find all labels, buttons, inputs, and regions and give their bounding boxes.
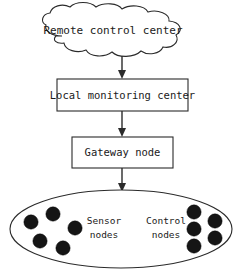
control-nodes-label-line1: Control [146,215,186,226]
sensor-node-dot [46,207,60,221]
ellipse-node-field[interactable]: Sensor nodes Control nodes [10,190,232,268]
sensor-node-dot [56,241,70,255]
box-label: Local monitoring center [50,89,195,101]
control-node-dot [187,222,201,236]
connector-local-monitoring-to-gateway [118,111,126,137]
sensor-nodes-label-line2: nodes [90,229,119,240]
box-label: Gateway node [85,146,161,158]
box-node-local-monitoring-center[interactable]: Local monitoring center [50,79,195,111]
control-nodes-label-line2: nodes [152,229,181,240]
connector-gateway-to-node-field [118,168,126,192]
sensor-node-dot [24,215,38,229]
network-architecture-diagram: Remote control center Local monitoring c… [0,0,245,277]
arrow-head-icon [118,70,126,79]
diagram-canvas: Remote control center Local monitoring c… [0,0,245,277]
box-node-gateway-node[interactable]: Gateway node [72,137,173,168]
control-node-dot [208,214,222,228]
control-node-dot [187,205,201,219]
sensor-nodes-label-line1: Sensor [87,215,122,226]
sensor-node-dot [33,234,47,248]
cloud-node-remote-control-center[interactable]: Remote control center [43,3,183,57]
sensor-node-dot [68,221,82,235]
arrow-head-icon [118,128,126,137]
connector-cloud-to-local-monitoring [118,56,126,79]
cloud-label: Remote control center [43,24,182,37]
control-node-dot [208,231,222,245]
control-node-dot [187,239,201,253]
